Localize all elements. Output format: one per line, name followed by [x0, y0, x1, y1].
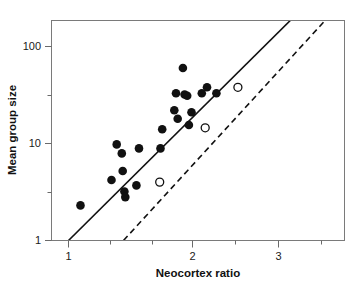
data-point: [107, 176, 116, 185]
data-point: [172, 89, 181, 98]
data-point: [158, 125, 167, 134]
y-axis-title: Mean group size: [6, 85, 18, 175]
x-axis-tick-labels: 1 2 3: [65, 250, 281, 262]
data-point: [76, 201, 85, 210]
data-point-open: [201, 124, 209, 132]
data-point-open: [234, 83, 242, 91]
data-point: [179, 64, 188, 73]
x-axis-ticks: [69, 241, 322, 248]
plot-canvas: 100 10 1 1 2 3 Neocortex ratio Mean grou…: [0, 0, 354, 284]
data-point: [212, 89, 221, 98]
x-tick-label-1: 1: [65, 250, 71, 262]
data-point: [132, 181, 141, 190]
data-point: [118, 167, 127, 176]
plot-frame: [52, 21, 345, 241]
x-tick-label-3: 3: [275, 250, 281, 262]
data-point: [183, 92, 192, 101]
y-axis-tick-labels: 100 10 1: [23, 40, 41, 246]
data-point: [135, 144, 144, 153]
data-point-open: [156, 178, 164, 186]
x-axis-title: Neocortex ratio: [156, 267, 240, 279]
data-point: [170, 106, 179, 115]
scatter-plot-figure: 100 10 1 1 2 3 Neocortex ratio Mean grou…: [0, 0, 354, 284]
y-tick-label-100: 100: [23, 40, 41, 52]
y-axis-ticks: [45, 47, 52, 241]
data-point: [185, 121, 194, 130]
data-point: [112, 140, 121, 149]
data-point: [121, 193, 130, 202]
data-point: [187, 108, 196, 117]
data-point: [203, 83, 212, 92]
data-point: [118, 149, 127, 158]
y-tick-label-1: 1: [35, 234, 41, 246]
data-point: [173, 114, 182, 123]
y-tick-label-10: 10: [29, 137, 41, 149]
data-point: [156, 144, 165, 153]
x-tick-label-2: 2: [189, 250, 195, 262]
